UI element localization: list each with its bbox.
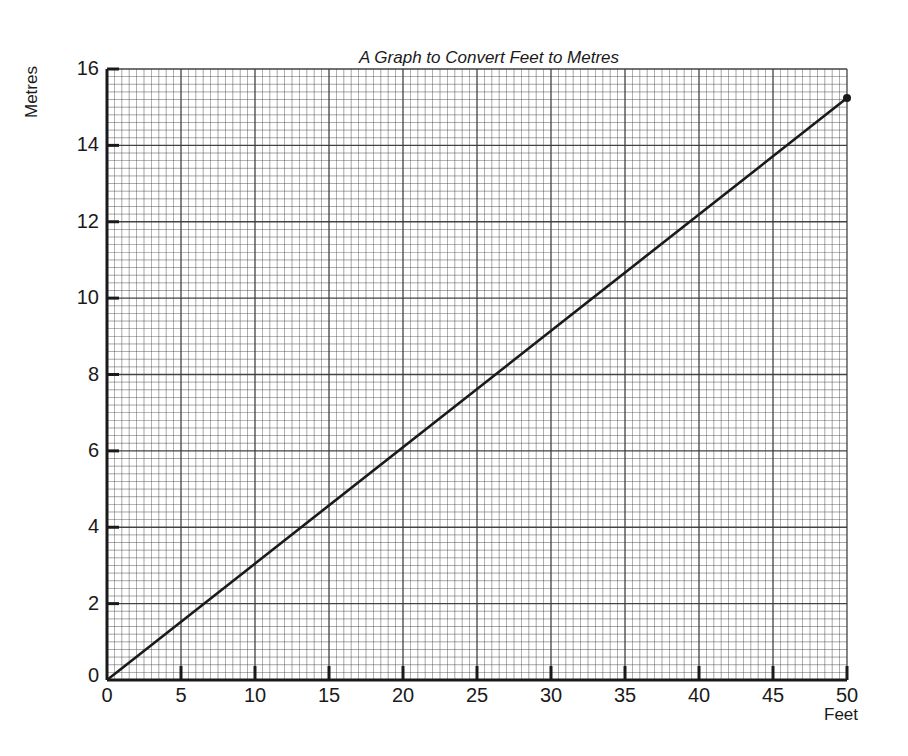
y-tick-label: 14 [59, 133, 99, 156]
data-series [107, 94, 851, 680]
y-tick-label: 12 [59, 210, 99, 233]
y-tick-label: 8 [59, 363, 99, 386]
x-tick-label: 5 [161, 684, 201, 707]
x-tick-label: 20 [383, 684, 423, 707]
x-tick-label: 10 [235, 684, 275, 707]
x-tick-label: 45 [753, 684, 793, 707]
y-tick-label: 6 [59, 439, 99, 462]
chart-title: A Graph to Convert Feet to Metres [0, 48, 908, 68]
x-tick-label: 35 [605, 684, 645, 707]
y-tick-label: 16 [59, 57, 99, 80]
x-tick-label: 50 [827, 684, 867, 707]
x-tick-label: 25 [457, 684, 497, 707]
endpoint-marker [843, 94, 851, 102]
x-tick-label: 40 [679, 684, 719, 707]
y-tick-label: 2 [59, 592, 99, 615]
x-axis-label: Feet [824, 705, 858, 725]
x-tick-label: 15 [309, 684, 349, 707]
y-axis-label: Metres [22, 66, 42, 118]
y-tick-label: 4 [59, 515, 99, 538]
x-tick-label: 30 [531, 684, 571, 707]
y-tick-label: 10 [59, 286, 99, 309]
chart-plot [0, 0, 908, 756]
x-tick-label: 0 [87, 684, 127, 707]
